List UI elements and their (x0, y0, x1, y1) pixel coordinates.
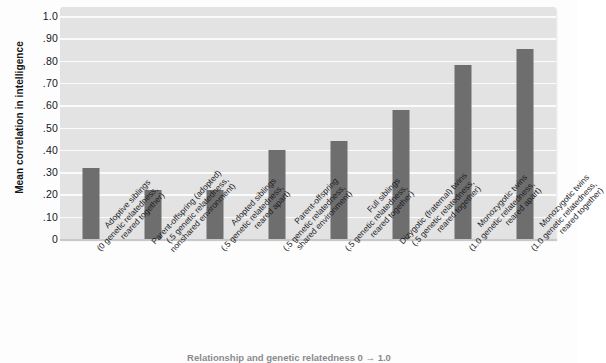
bar (83, 168, 100, 239)
x-axis-title: Relationship and genetic relatedness 0 →… (0, 352, 578, 363)
x-axis-tick-labels: Adoptive siblings(0 genetic relatedness,… (0, 240, 578, 350)
y-axis-tick: .30 (26, 166, 58, 178)
y-axis-tick: .40 (26, 144, 58, 156)
y-axis-tick: .90 (26, 32, 58, 44)
y-axis-tick: .80 (26, 55, 58, 67)
bar (393, 110, 410, 239)
y-axis-title: Mean correlation in intelligence (14, 13, 25, 223)
y-axis-tick: 1.0 (26, 10, 58, 22)
y-axis-tick: .20 (26, 188, 58, 200)
y-axis-tick: .10 (26, 211, 58, 223)
y-axis-tick-labels: 1.0.90.80.70.60.50.40.30.20.100 (26, 7, 58, 240)
y-axis-tick: .60 (26, 99, 58, 111)
y-axis-tick: .70 (26, 77, 58, 89)
y-axis-tick: .50 (26, 122, 58, 134)
